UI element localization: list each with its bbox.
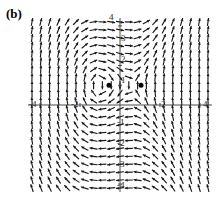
x-tick-2: 2 — [161, 100, 166, 109]
y-tick-minus-2: -2 — [117, 139, 125, 148]
panel-label: (b) — [6, 6, 22, 22]
x-tick-4: 4 — [203, 100, 208, 109]
y-tick-1: 1 — [121, 76, 126, 85]
y-tick-minus-1: -1 — [117, 118, 125, 127]
saddle-point-right — [139, 83, 144, 88]
vector-field-plot: 4 3 2 1 -1 -2 -3 -4 -4 -2 2 4 — [28, 18, 212, 192]
y-tick-3: 3 — [121, 34, 126, 43]
x-tick-minus-4: -4 — [29, 100, 37, 109]
y-tick-minus-3: -3 — [117, 160, 125, 169]
y-tick-4: 4 — [109, 13, 114, 22]
figure-panel-b: (b) 4 3 2 1 -1 -2 -3 -4 -4 -2 2 4 — [0, 0, 223, 211]
y-tick-2: 2 — [121, 55, 126, 64]
y-tick-minus-4: -4 — [117, 181, 125, 190]
x-tick-minus-2: -2 — [71, 100, 79, 109]
spiral-point-left — [107, 83, 112, 88]
